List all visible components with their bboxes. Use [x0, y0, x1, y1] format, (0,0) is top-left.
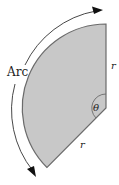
arrowhead-bottom-icon — [27, 166, 36, 177]
angle-label: θ — [93, 102, 99, 113]
sector-shape — [22, 24, 106, 168]
sector-diagram: Arc r r θ — [0, 0, 119, 185]
radius-label-bottom: r — [80, 139, 86, 150]
arc-label: Arc — [6, 65, 28, 79]
arrowhead-top-icon — [92, 7, 103, 15]
radius-label-right: r — [111, 60, 117, 71]
